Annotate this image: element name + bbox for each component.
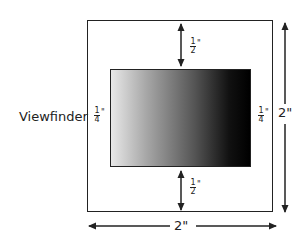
denominator: 2 xyxy=(190,188,195,196)
bottom-margin-label: 12 " xyxy=(190,179,201,196)
right-margin-label: 14 " xyxy=(258,107,269,124)
height-label: 2" xyxy=(276,105,294,120)
top-margin-label: 12 " xyxy=(190,38,201,55)
unit: " xyxy=(197,39,201,48)
unit: " xyxy=(101,108,105,117)
unit: " xyxy=(197,180,201,189)
viewfinder-window xyxy=(110,69,251,167)
denominator: 4 xyxy=(94,116,99,124)
numerator: 1 xyxy=(94,107,99,115)
numerator: 1 xyxy=(190,179,195,187)
numerator: 1 xyxy=(190,38,195,46)
unit: " xyxy=(265,108,269,117)
numerator: 1 xyxy=(258,107,263,115)
denominator: 4 xyxy=(258,116,263,124)
denominator: 2 xyxy=(190,47,195,55)
left-margin-label: 14 " xyxy=(94,107,105,124)
viewfinder-label: Viewfinder xyxy=(19,109,88,124)
width-label: 2" xyxy=(172,218,190,233)
